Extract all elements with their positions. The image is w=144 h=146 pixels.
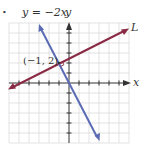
bullet: •	[2, 8, 7, 17]
x-axis-label: x	[133, 76, 140, 89]
line2-label: L	[130, 21, 138, 34]
perpendicular-lines-figure: • y = −2x y L x (−1, 2)	[0, 0, 144, 146]
line1-label: y = −2x	[21, 6, 68, 19]
coordinate-plane: • y = −2x y L x (−1, 2)	[0, 0, 144, 146]
x-axis-arrow-icon	[123, 80, 131, 86]
point-label: (−1, 2)	[23, 55, 58, 66]
y-axis-label: y	[64, 6, 72, 19]
